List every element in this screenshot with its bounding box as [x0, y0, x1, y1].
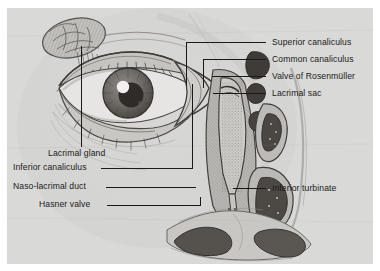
label-inferior-turbinate: Inferior turbinate [272, 184, 336, 193]
label-inferior-canaliculus: Inferior canaliculus [13, 163, 87, 172]
label-naso-lacrimal-duct: Naso-lacrimal duct [13, 182, 86, 191]
figure-root: Superior canaliculus Common canaliculus … [0, 0, 380, 271]
label-common-canaliculus: Common canaliculus [272, 55, 354, 64]
duct-mucosa-stipple [222, 82, 242, 192]
label-hasner-valve: Hasner valve [39, 200, 90, 209]
label-lacrimal-gland: Lacrimal gland [48, 149, 105, 158]
label-lacrimal-sac: Lacrimal sac [272, 89, 321, 98]
label-superior-canaliculus: Superior canaliculus [272, 38, 351, 47]
corneal-highlight [117, 81, 129, 93]
label-valve-of-rosenmuller: Valve of Rosenmüller [272, 72, 355, 81]
